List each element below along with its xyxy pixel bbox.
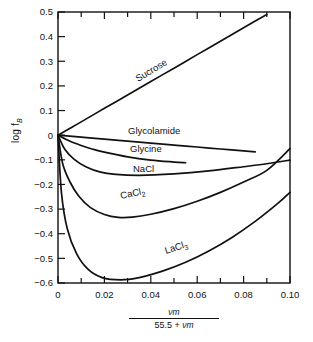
y-tick-label: 0.2 xyxy=(40,80,53,91)
x-tick-label: 0.04 xyxy=(142,289,161,300)
curve-lacl3 xyxy=(58,135,290,280)
curve-glycine xyxy=(58,135,186,163)
y-tick-label: −0.3 xyxy=(34,203,53,214)
x-axis-denominator-constant: 55.5 + xyxy=(154,320,182,330)
curve-cacl2 xyxy=(58,135,290,218)
x-tick-label: 0.08 xyxy=(234,289,253,300)
x-axis-label: νm 55.5 + νm xyxy=(128,307,220,330)
x-tick-label: 0.06 xyxy=(188,289,207,300)
y-tick-label: 0.5 xyxy=(40,6,53,17)
y-axis-label-text: log f xyxy=(10,123,21,143)
curve-nacl xyxy=(58,135,290,175)
x-axis-ticks: 00.020.040.060.080.10 xyxy=(55,12,299,300)
x-axis-label-denominator: 55.5 + νm xyxy=(128,319,220,330)
curve-sucrose xyxy=(58,14,267,135)
x-tick-label: 0.02 xyxy=(95,289,114,300)
y-tick-label: 0.4 xyxy=(40,31,53,42)
x-tick-label: 0.10 xyxy=(281,289,300,300)
curve-label-sucrose: Sucrose xyxy=(133,56,169,83)
y-tick-label: −0.2 xyxy=(34,179,53,190)
y-tick-label: −0.5 xyxy=(34,253,53,264)
curve-label-cacl2: CaCl2 xyxy=(119,185,146,202)
curve-label-glycine: Glycine xyxy=(130,143,162,154)
curve-label-lacl3: LaCl3 xyxy=(163,238,189,257)
y-axis-label: log fB xyxy=(10,101,23,161)
y-tick-label: 0 xyxy=(48,130,53,141)
x-axis-label-numerator: νm xyxy=(128,307,220,318)
x-axis-denominator-term: νm xyxy=(182,320,193,330)
y-tick-label: 0.3 xyxy=(40,56,53,67)
curve-label-glycolamide: Glycolamide xyxy=(128,125,180,136)
y-tick-label: −0.6 xyxy=(34,277,53,288)
data-curves xyxy=(58,14,290,279)
y-tick-label: −0.4 xyxy=(34,228,53,239)
y-axis-label-subscript: B xyxy=(16,118,23,123)
y-tick-label: −0.1 xyxy=(34,154,53,165)
activity-coefficient-chart: 0.50.40.30.20.10−0.1−0.2−0.3−0.4−0.5−0.6… xyxy=(0,0,313,342)
x-tick-label: 0 xyxy=(55,289,60,300)
figure-container: 0.50.40.30.20.10−0.1−0.2−0.3−0.4−0.5−0.6… xyxy=(0,0,313,342)
y-tick-label: 0.1 xyxy=(40,105,53,116)
curve-label-nacl: NaCl xyxy=(133,163,154,174)
